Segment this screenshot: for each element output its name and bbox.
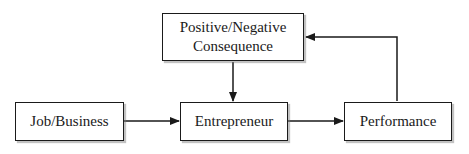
node-performance-label: Performance bbox=[360, 112, 437, 131]
node-job-business-label: Job/Business bbox=[30, 112, 108, 131]
node-entrepreneur-label: Entrepreneur bbox=[195, 112, 273, 131]
edge-performance-to-consequence bbox=[306, 37, 397, 101]
node-performance: Performance bbox=[344, 102, 452, 141]
node-consequence: Positive/Negative Consequence bbox=[162, 13, 304, 61]
node-entrepreneur: Entrepreneur bbox=[180, 102, 288, 141]
node-job-business: Job/Business bbox=[15, 102, 124, 141]
node-consequence-line1: Positive/Negative bbox=[180, 18, 287, 37]
node-consequence-line2: Consequence bbox=[193, 37, 273, 56]
